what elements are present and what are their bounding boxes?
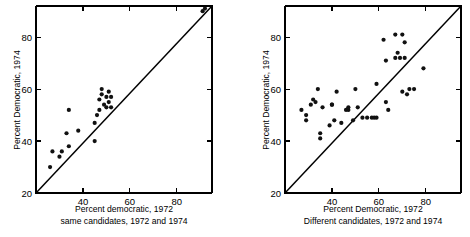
right-y-axis-title: Percent Democratic, 1974 <box>261 50 271 150</box>
y-tick-label: 40 <box>21 136 32 147</box>
left-data-points <box>48 6 207 169</box>
data-point <box>403 40 407 44</box>
data-point <box>396 51 400 55</box>
data-point <box>320 105 324 109</box>
data-point <box>384 58 388 62</box>
data-point <box>309 103 313 107</box>
data-point <box>374 82 378 86</box>
data-point <box>299 108 303 112</box>
data-point <box>109 105 113 109</box>
data-point <box>339 121 343 125</box>
left-identity-reference-line <box>36 6 212 193</box>
data-point <box>386 108 390 112</box>
data-point <box>327 123 331 127</box>
y-tick-label: 80 <box>21 32 32 43</box>
y-tick-label: 40 <box>270 136 281 147</box>
y-tick-label: 60 <box>21 84 32 95</box>
data-point <box>67 108 71 112</box>
right-tick-labels: 40608020406080 <box>270 32 431 207</box>
left-y-axis-title: Percent Democratic, 1974 <box>12 50 22 150</box>
data-point <box>97 108 101 112</box>
data-point <box>407 87 411 91</box>
y-tick-label: 20 <box>270 188 281 199</box>
data-point <box>60 149 64 153</box>
scatter-panel-right: 40608020406080 Percent Democratic, 1974 … <box>235 0 470 237</box>
data-point <box>107 90 111 94</box>
data-point <box>304 118 308 122</box>
data-point <box>403 56 407 60</box>
data-point <box>93 139 97 143</box>
right-plot-svg: 40608020406080 Percent Democratic, 1974 … <box>235 0 470 237</box>
y-tick-label: 80 <box>270 32 281 43</box>
data-point <box>421 66 425 70</box>
data-point <box>64 131 68 135</box>
data-point <box>100 92 104 96</box>
data-point <box>313 100 317 104</box>
data-point <box>76 129 80 133</box>
data-point <box>95 113 99 117</box>
y-tick-label: 20 <box>21 188 32 199</box>
data-point <box>412 87 416 91</box>
data-point <box>203 6 207 10</box>
data-point <box>400 32 404 36</box>
data-point <box>316 87 320 91</box>
x-tick-label: 80 <box>172 196 183 207</box>
data-point <box>346 105 350 109</box>
data-point <box>374 116 378 120</box>
data-point <box>398 56 402 60</box>
data-point <box>405 92 409 96</box>
data-point <box>50 149 54 153</box>
left-x-axis-title: Percent democratic, 1972 <box>75 204 173 214</box>
data-point <box>97 97 101 101</box>
data-point <box>104 105 108 109</box>
data-point <box>330 103 334 107</box>
data-point <box>57 155 61 159</box>
data-point <box>67 144 71 148</box>
data-point <box>381 38 385 42</box>
data-point <box>332 118 336 122</box>
y-tick-label: 60 <box>270 84 281 95</box>
data-point <box>351 118 355 122</box>
data-point <box>104 95 108 99</box>
figure-container: 40608020406080 Percent Democratic, 1974 … <box>0 0 470 237</box>
data-point <box>360 116 364 120</box>
data-point <box>109 95 113 99</box>
data-point <box>384 100 388 104</box>
data-point <box>400 90 404 94</box>
data-point <box>356 105 360 109</box>
left-plot-svg: 40608020406080 Percent Democratic, 1974 … <box>0 0 235 237</box>
data-point <box>304 113 308 117</box>
data-point <box>107 100 111 104</box>
data-point <box>393 32 397 36</box>
scatter-panel-left: 40608020406080 Percent Democratic, 1974 … <box>0 0 235 237</box>
data-point <box>318 131 322 135</box>
data-point <box>318 136 322 140</box>
right-x-axis-title: Percent Democratic, 1972 <box>323 204 423 214</box>
data-point <box>393 56 397 60</box>
right-data-points <box>299 32 425 140</box>
left-tick-labels: 40608020406080 <box>21 32 182 207</box>
data-point <box>365 116 369 120</box>
data-point <box>353 87 357 91</box>
data-point <box>93 121 97 125</box>
data-point <box>48 165 52 169</box>
right-x-axis-subtitle: Different candidates, 1972 and 1974 <box>304 216 443 226</box>
left-x-axis-subtitle: same candidates, 1972 and 1974 <box>60 216 187 226</box>
data-point <box>335 90 339 94</box>
data-point <box>100 87 104 91</box>
